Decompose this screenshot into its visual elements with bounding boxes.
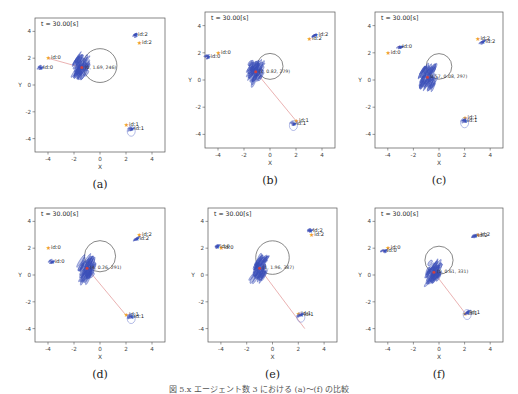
time-label: t = 30.00[s] [381,210,418,217]
y-tick-label: 2 [367,245,371,251]
x-tick-label: 4 [488,346,492,352]
x-tick-label: 2 [463,346,467,352]
y-tick-label: -4 [365,326,371,332]
figure-caption: 図 5.x エージェント数 3 における (a)〜(f) の比較 [0,383,518,394]
y-tick-label: 0 [367,272,371,278]
y-tick-label: 4 [367,218,371,224]
agent-label: id:2 [478,232,488,238]
center-annotation: (0, 0.61, 331) [437,269,469,274]
agent-label: id:0 [387,247,397,253]
estimated-center-marker [432,271,435,274]
x-tick-label: -4 [385,346,391,352]
y-tick-label: -2 [365,299,371,305]
agent-label: id:1 [470,309,480,315]
x-axis-label: X [437,353,441,360]
y-axis-label: Y [357,271,362,278]
x-tick-label: 0 [437,346,441,352]
x-tick-label: -2 [411,346,417,352]
subfigure-label-f: (f) [419,368,459,381]
